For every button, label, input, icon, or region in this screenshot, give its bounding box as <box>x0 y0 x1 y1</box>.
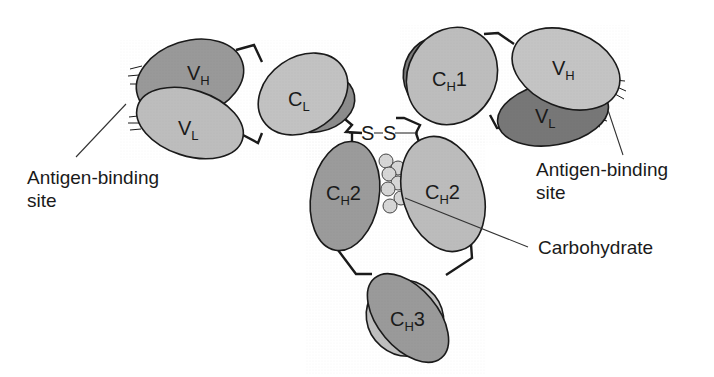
leader-line-right-antigen <box>608 110 623 155</box>
sulfur-label-1: S <box>361 122 374 144</box>
right-ch1-domain <box>389 11 515 142</box>
disulfide-bond: S S <box>349 122 418 144</box>
sulfur-label-2: S <box>383 122 396 144</box>
fc-region <box>302 126 499 377</box>
label-antigen-left-1: Antigen-binding <box>27 167 159 188</box>
label-antigen-left-2: site <box>27 190 57 211</box>
label-antigen-right-1: Antigen-binding <box>536 159 668 180</box>
antibody-diagram: S S <box>0 0 714 377</box>
label-carbohydrate: Carbohydrate <box>538 237 653 258</box>
leader-line-left-antigen <box>76 104 126 157</box>
right-fab <box>389 11 632 155</box>
label-antigen-right-2: site <box>536 182 566 203</box>
